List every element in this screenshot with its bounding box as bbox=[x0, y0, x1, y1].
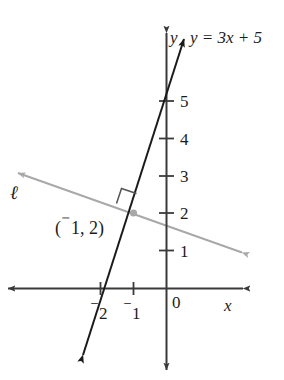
x-tick-number--2: 2 bbox=[99, 304, 108, 323]
y-axis-label: y bbox=[170, 29, 178, 46]
line-ell-label: ℓ bbox=[10, 183, 18, 202]
equation-label: y = 3x + 5 bbox=[190, 29, 262, 46]
point-y-value: 2 bbox=[89, 218, 98, 238]
graph-canvas bbox=[0, 0, 284, 380]
y-tick-label-5: 5 bbox=[180, 93, 189, 110]
y-tick-label-3: 3 bbox=[180, 168, 189, 185]
coordinate-plane-figure: y = 3x + 5 y x 0 1 2 3 4 5 ⁻2 ⁻1 (⁻1, 2)… bbox=[0, 0, 284, 380]
x-axis-label: x bbox=[224, 297, 232, 314]
origin-label: 0 bbox=[172, 294, 181, 311]
raised-minus-icon: ⁻ bbox=[61, 211, 71, 231]
paren-close: ) bbox=[98, 218, 104, 238]
raised-minus-icon: ⁻ bbox=[123, 297, 132, 316]
x-tick-label--1: ⁻1 bbox=[123, 298, 141, 322]
x-tick-number--1: 1 bbox=[132, 304, 141, 323]
point-x-value: 1, bbox=[71, 218, 85, 238]
intersection-point bbox=[130, 209, 137, 216]
y-tick-label-1: 1 bbox=[180, 243, 189, 260]
y-tick-label-4: 4 bbox=[180, 131, 189, 148]
raised-minus-icon: ⁻ bbox=[90, 297, 99, 316]
point-label: (⁻1, 2) bbox=[55, 212, 104, 237]
x-tick-label--2: ⁻2 bbox=[90, 298, 108, 322]
y-tick-label-2: 2 bbox=[180, 205, 189, 222]
